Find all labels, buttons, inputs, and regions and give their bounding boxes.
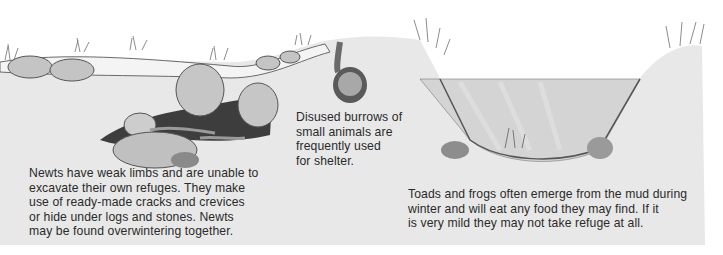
frog-left [441, 141, 469, 159]
caption-toads-frogs: Toads and frogs often emerge from the mu… [408, 187, 708, 231]
caption-newts: Newts have weak limbs and are unable to … [29, 166, 269, 239]
toad-figure [338, 72, 362, 96]
frog-right [587, 137, 613, 159]
caption-burrows: Disused burrows of small animals are fre… [296, 110, 416, 168]
newt-figure [200, 137, 245, 138]
